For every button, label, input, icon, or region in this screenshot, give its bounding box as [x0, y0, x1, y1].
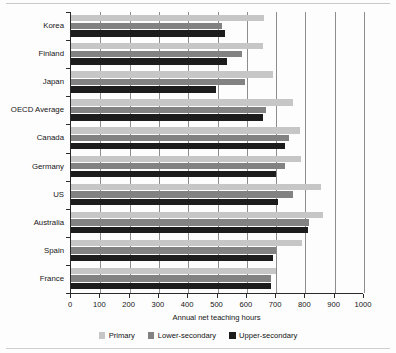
y-axis-tick — [66, 40, 70, 41]
legend-label: Lower-secondary — [158, 331, 216, 340]
y-axis-category-label: Spain — [0, 246, 64, 255]
chart-legend: PrimaryLower-secondaryUpper-secondary — [0, 331, 396, 340]
x-axis-tick-label: 1000 — [343, 300, 383, 309]
x-axis-title: Annual net teaching hours — [70, 313, 363, 322]
y-axis-category-label: France — [0, 274, 64, 283]
bar-primary — [71, 127, 300, 133]
x-axis-tick — [158, 294, 159, 298]
bar-primary — [71, 268, 276, 274]
bar-primary — [71, 99, 293, 105]
bar-group — [71, 96, 364, 124]
bar-upper — [71, 255, 273, 261]
y-axis-tick — [66, 153, 70, 154]
bar-lower — [71, 79, 245, 85]
bar-lower — [71, 191, 293, 197]
bar-group — [71, 181, 364, 209]
y-axis-category-label: OECD Average — [0, 105, 64, 114]
bar-lower — [71, 163, 285, 169]
y-axis-category-label: US — [0, 190, 64, 199]
bar-group — [71, 265, 364, 293]
bar-group — [71, 209, 364, 237]
y-axis-tick — [66, 237, 70, 238]
legend-swatch-icon — [229, 332, 236, 339]
bar-group — [71, 153, 364, 181]
gridline — [364, 12, 365, 293]
legend-label: Primary — [109, 331, 135, 340]
y-axis-category-label: Germany — [0, 162, 64, 171]
top-divider — [6, 3, 390, 4]
bar-primary — [71, 184, 321, 190]
x-axis-tick — [129, 294, 130, 298]
bar-group — [71, 40, 364, 68]
bar-upper — [71, 283, 271, 289]
legend-swatch-icon — [99, 332, 106, 339]
y-axis-tick — [66, 181, 70, 182]
bar-lower — [71, 219, 309, 225]
bar-group — [71, 12, 364, 40]
legend-item: Upper-secondary — [229, 331, 297, 340]
plot-area — [70, 12, 364, 293]
legend-item: Lower-secondary — [148, 331, 216, 340]
bottom-divider — [6, 348, 390, 349]
y-axis-tick — [66, 209, 70, 210]
x-axis-tick — [187, 294, 188, 298]
x-axis-tick — [275, 294, 276, 298]
bar-primary — [71, 15, 264, 21]
bar-upper — [71, 58, 227, 64]
x-axis-tick — [246, 294, 247, 298]
legend-item: Primary — [99, 331, 135, 340]
legend-swatch-icon — [148, 332, 155, 339]
bar-upper — [71, 171, 276, 177]
x-axis-tick — [217, 294, 218, 298]
legend-label: Upper-secondary — [239, 331, 297, 340]
y-axis-tick — [66, 68, 70, 69]
bar-chart-figure: KoreaFinlandJapanOECD AverageCanadaGerma… — [0, 0, 396, 353]
bar-lower — [71, 275, 271, 281]
y-axis-category-label: Japan — [0, 77, 64, 86]
bar-lower — [71, 247, 276, 253]
bar-upper — [71, 30, 225, 36]
bar-group — [71, 237, 364, 265]
bar-lower — [71, 51, 242, 57]
y-axis-tick — [66, 12, 70, 13]
bar-lower — [71, 23, 222, 29]
bar-primary — [71, 71, 273, 77]
y-axis-tick — [66, 96, 70, 97]
bar-primary — [71, 156, 301, 162]
bar-primary — [71, 240, 302, 246]
x-axis-tick — [334, 294, 335, 298]
bar-upper — [71, 86, 216, 92]
bar-upper — [71, 114, 263, 120]
y-axis-category-label: Canada — [0, 133, 64, 142]
bar-lower — [71, 135, 289, 141]
y-axis-tick — [66, 265, 70, 266]
y-axis-tick — [66, 124, 70, 125]
bar-upper — [71, 143, 285, 149]
bar-primary — [71, 43, 263, 49]
x-axis-tick — [363, 294, 364, 298]
y-axis-category-label: Korea — [0, 21, 64, 30]
bar-group — [71, 68, 364, 96]
bar-primary — [71, 212, 323, 218]
y-axis-category-label: Finland — [0, 49, 64, 58]
y-axis-category-label: Australia — [0, 218, 64, 227]
x-axis-tick — [70, 294, 71, 298]
bar-upper — [71, 227, 308, 233]
bar-lower — [71, 107, 266, 113]
bar-upper — [71, 199, 278, 205]
bar-group — [71, 124, 364, 152]
x-axis-tick — [99, 294, 100, 298]
x-axis-tick — [304, 294, 305, 298]
